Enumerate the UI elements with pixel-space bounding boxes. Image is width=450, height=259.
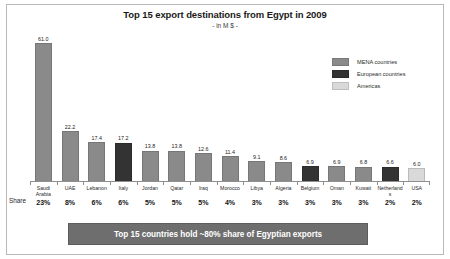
category-label: Kuwait bbox=[350, 185, 377, 197]
category-column: Iraq5% bbox=[190, 185, 217, 211]
bar-value-label: 6.8 bbox=[360, 159, 368, 165]
category-column: Lebanon6% bbox=[83, 185, 110, 211]
bar-value-label: 61.0 bbox=[38, 36, 49, 42]
share-value: 3% bbox=[323, 198, 350, 207]
bar-column[interactable]: 17.2 bbox=[110, 33, 137, 182]
chart-subtitle: - in M $ - bbox=[0, 21, 450, 30]
bar-series: 61.022.217.417.213.813.812.611.49.18.66.… bbox=[30, 33, 430, 182]
category-column: Algeria3% bbox=[270, 185, 297, 211]
category-label: Saudi Arabia bbox=[30, 185, 57, 197]
category-label: Qatar bbox=[163, 185, 190, 197]
bar-column[interactable]: 17.4 bbox=[83, 33, 110, 182]
bar-column[interactable]: 6.8 bbox=[350, 33, 377, 182]
bar-rect[interactable] bbox=[35, 43, 52, 182]
bar-column[interactable]: 9.1 bbox=[243, 33, 270, 182]
share-value: 3% bbox=[270, 198, 297, 207]
category-label: Oman bbox=[323, 185, 350, 197]
plot-area: 61.022.217.417.213.813.812.611.49.18.66.… bbox=[30, 33, 430, 182]
bar-value-label: 17.2 bbox=[118, 135, 129, 141]
bar-column[interactable]: 13.8 bbox=[137, 33, 164, 182]
bar-value-label: 8.6 bbox=[280, 155, 288, 161]
summary-banner-text: Top 15 countries hold ~80% share of Egyp… bbox=[114, 230, 322, 239]
category-column: Jordan5% bbox=[137, 185, 164, 211]
bar-rect[interactable] bbox=[408, 168, 425, 182]
bar-value-label: 12.6 bbox=[198, 146, 209, 152]
category-label: Iraq bbox=[190, 185, 217, 197]
category-column: Morocco4% bbox=[217, 185, 244, 211]
share-value: 5% bbox=[190, 198, 217, 207]
category-column: Belgium3% bbox=[297, 185, 324, 211]
category-label: Morocco bbox=[217, 185, 244, 197]
bar-rect[interactable] bbox=[195, 153, 212, 182]
bar-rect[interactable] bbox=[302, 166, 319, 182]
bar-column[interactable]: 8.6 bbox=[270, 33, 297, 182]
bar-column[interactable]: 11.4 bbox=[217, 33, 244, 182]
share-value: 3% bbox=[243, 198, 270, 207]
bar-rect[interactable] bbox=[142, 151, 159, 182]
share-value: 5% bbox=[137, 198, 164, 207]
page-title: Top 15 export destinations from Egypt in… bbox=[0, 9, 450, 20]
bar-value-label: 6.9 bbox=[306, 159, 314, 165]
category-label: Netherlands bbox=[377, 185, 404, 197]
category-column: Netherlands2% bbox=[377, 185, 404, 211]
bar-rect[interactable] bbox=[168, 151, 185, 182]
share-value: 8% bbox=[57, 198, 84, 207]
bar-rect[interactable] bbox=[115, 143, 132, 182]
category-label: UAE bbox=[57, 185, 84, 197]
bar-value-label: 11.4 bbox=[225, 149, 235, 155]
share-value: 3% bbox=[297, 198, 324, 207]
category-axis: Saudi Arabia23%UAE8%Lebanon6%Italy6%Jord… bbox=[30, 185, 430, 211]
bar-column[interactable]: 6.6 bbox=[377, 33, 404, 182]
share-row-label: Share bbox=[9, 197, 26, 204]
summary-banner: Top 15 countries hold ~80% share of Egyp… bbox=[68, 223, 368, 245]
bar-column[interactable]: 22.2 bbox=[57, 33, 84, 182]
category-label: Lebanon bbox=[83, 185, 110, 197]
category-column: Libya3% bbox=[243, 185, 270, 211]
bar-value-label: 13.8 bbox=[145, 143, 156, 149]
bar-rect[interactable] bbox=[248, 161, 265, 182]
category-column: Italy6% bbox=[110, 185, 137, 211]
bar-value-label: 22.2 bbox=[65, 124, 76, 130]
category-label: Belgium bbox=[297, 185, 324, 197]
share-value: 3% bbox=[350, 198, 377, 207]
category-column: UAE8% bbox=[57, 185, 84, 211]
category-label: Jordan bbox=[137, 185, 164, 197]
bar-value-label: 6.0 bbox=[413, 161, 421, 167]
bar-column[interactable]: 6.9 bbox=[297, 33, 324, 182]
bar-rect[interactable] bbox=[88, 142, 105, 182]
slide-canvas: Top 15 export destinations from Egypt in… bbox=[0, 0, 450, 259]
share-value: 23% bbox=[30, 198, 57, 207]
category-column: Oman3% bbox=[323, 185, 350, 211]
category-label: Algeria bbox=[270, 185, 297, 197]
bar-rect[interactable] bbox=[62, 131, 79, 182]
bar-rect[interactable] bbox=[355, 167, 372, 182]
share-value: 4% bbox=[217, 198, 244, 207]
bar-value-label: 6.9 bbox=[333, 159, 341, 165]
category-column: Saudi Arabia23% bbox=[30, 185, 57, 211]
bar-column[interactable]: 6.0 bbox=[403, 33, 430, 182]
bar-column[interactable]: 12.6 bbox=[190, 33, 217, 182]
category-column: Qatar5% bbox=[163, 185, 190, 211]
bar-rect[interactable] bbox=[222, 156, 239, 182]
category-column: Kuwait3% bbox=[350, 185, 377, 211]
chart-header: Top 15 export destinations from Egypt in… bbox=[0, 9, 450, 30]
share-value: 2% bbox=[403, 198, 430, 207]
bar-column[interactable]: 13.8 bbox=[163, 33, 190, 182]
share-value: 6% bbox=[83, 198, 110, 207]
bar-value-label: 9.1 bbox=[253, 154, 261, 160]
category-label: Libya bbox=[243, 185, 270, 197]
bar-value-label: 13.8 bbox=[171, 143, 182, 149]
category-label: USA bbox=[403, 185, 430, 197]
bar-rect[interactable] bbox=[275, 162, 292, 182]
bar-rect[interactable] bbox=[382, 167, 399, 182]
bar-rect[interactable] bbox=[328, 166, 345, 182]
category-label: Italy bbox=[110, 185, 137, 197]
share-value: 5% bbox=[163, 198, 190, 207]
category-column: USA2% bbox=[403, 185, 430, 211]
share-value: 6% bbox=[110, 198, 137, 207]
share-value: 2% bbox=[377, 198, 404, 207]
bar-value-label: 17.4 bbox=[91, 135, 102, 141]
bar-column[interactable]: 6.9 bbox=[323, 33, 350, 182]
bar-column[interactable]: 61.0 bbox=[30, 33, 57, 182]
bar-value-label: 6.6 bbox=[386, 159, 394, 165]
